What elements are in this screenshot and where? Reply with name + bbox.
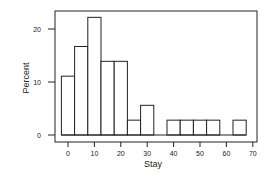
- histogram-bar: [167, 120, 180, 135]
- x-tick-label: 0: [66, 150, 70, 157]
- histogram-bar: [127, 120, 140, 135]
- histogram-bar: [180, 120, 193, 135]
- x-tick-label: 10: [91, 150, 99, 157]
- histogram-bar: [61, 76, 74, 135]
- x-tick-label: 40: [170, 150, 178, 157]
- x-tick-label: 30: [143, 150, 151, 157]
- y-axis: 01020: [33, 26, 55, 139]
- y-tick-label: 10: [33, 79, 41, 86]
- x-axis: 010203040506070: [66, 142, 257, 157]
- x-tick-label: 50: [196, 150, 204, 157]
- y-axis-label: Percent: [21, 62, 31, 94]
- histogram-bar: [88, 17, 101, 135]
- histogram-bar: [207, 120, 220, 135]
- y-tick-label: 20: [33, 26, 41, 33]
- histogram-chart: 01020 010203040506070 Percent Stay: [0, 0, 273, 178]
- x-axis-label: Stay: [144, 159, 163, 169]
- histogram-bar: [75, 46, 88, 135]
- x-tick-label: 70: [249, 150, 257, 157]
- histogram-bar: [101, 61, 114, 135]
- histogram-bar: [233, 120, 246, 135]
- histogram-bar: [114, 61, 127, 135]
- x-tick-label: 20: [117, 150, 125, 157]
- histogram-bars: [61, 17, 246, 135]
- y-tick-label: 0: [37, 132, 41, 139]
- histogram-bar: [141, 105, 154, 135]
- histogram-bar: [193, 120, 206, 135]
- x-tick-label: 60: [223, 150, 231, 157]
